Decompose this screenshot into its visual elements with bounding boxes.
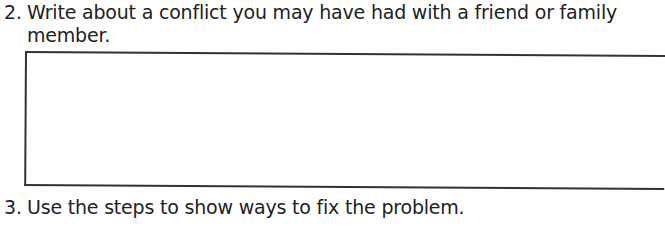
question-3-number: 3.	[4, 196, 27, 219]
question-3: 3.Use the steps to show ways to fix the …	[4, 196, 464, 219]
question-2-text-continued: member.	[4, 24, 617, 47]
answer-box-question-2[interactable]	[24, 51, 665, 190]
question-2: 2.Write about a conflict you may have ha…	[4, 1, 617, 47]
question-2-text: Write about a conflict you may have had …	[27, 1, 617, 23]
question-2-line-1: 2.Write about a conflict you may have ha…	[4, 1, 617, 24]
question-3-text: Use the steps to show ways to fix the pr…	[27, 196, 464, 218]
question-2-number: 2.	[4, 1, 27, 24]
